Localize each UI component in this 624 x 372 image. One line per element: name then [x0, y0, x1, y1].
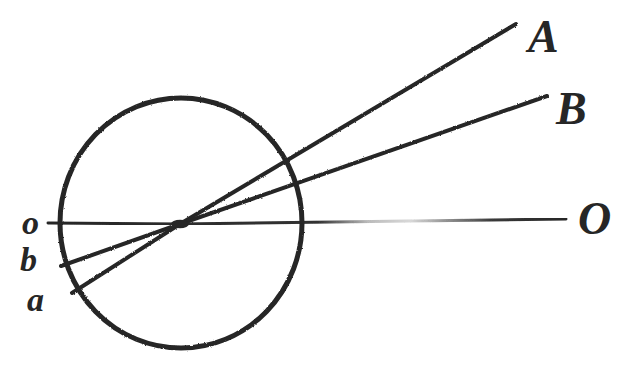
label-ray-A-source: A: [528, 14, 559, 60]
ray-A-to-a: [72, 24, 516, 293]
label-axis-right: O: [578, 196, 611, 242]
label-axis-left: o: [22, 206, 39, 240]
label-object-a: a: [27, 283, 44, 317]
ray-B-to-b: [61, 96, 547, 266]
figure-container: A B O o b a: [0, 0, 624, 372]
label-ray-B-source: B: [556, 86, 587, 132]
optical-axis: [48, 219, 566, 224]
nodal-point: [171, 220, 189, 228]
label-object-b: b: [20, 243, 37, 277]
